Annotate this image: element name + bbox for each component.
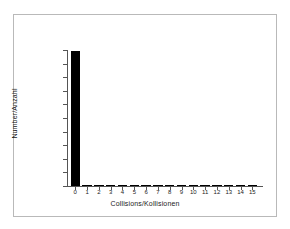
bar xyxy=(248,185,257,186)
bar xyxy=(71,51,80,186)
bar xyxy=(118,185,127,186)
bar xyxy=(224,185,233,186)
x-axis-tick-label: 15 xyxy=(245,189,259,196)
bar xyxy=(236,185,245,186)
bar xyxy=(212,185,221,186)
chart-figure: 0100000200000300000400000500000600000700… xyxy=(0,0,290,229)
plot-area xyxy=(67,50,263,186)
bar xyxy=(106,185,115,186)
y-axis-title: Number/Anzahl xyxy=(11,79,18,149)
bar xyxy=(94,185,103,186)
bar xyxy=(189,185,198,186)
bar xyxy=(200,185,209,186)
x-axis-line xyxy=(67,186,263,187)
x-axis-title: Collisions/Kollisionen xyxy=(0,200,290,207)
bar xyxy=(130,185,139,186)
y-axis-tick xyxy=(63,186,67,187)
bar xyxy=(165,185,174,186)
bar xyxy=(153,185,162,186)
bar xyxy=(177,185,186,186)
bar xyxy=(82,185,91,186)
bar xyxy=(141,185,150,186)
